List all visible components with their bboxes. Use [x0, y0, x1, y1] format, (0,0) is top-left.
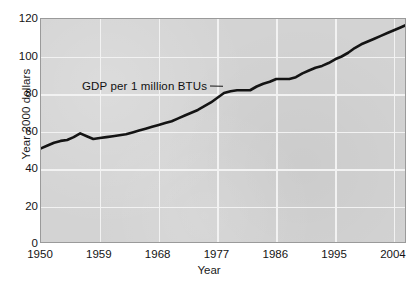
annotation-label-gdp-per-million-btus: GDP per 1 million BTUs [82, 80, 207, 92]
x-tick-label: 1950 [27, 248, 53, 260]
x-tick-label: 1977 [204, 248, 230, 260]
line-series-gdp-per-million-btus [41, 19, 406, 243]
x-tick-label: 1986 [262, 248, 288, 260]
x-tick-label: 1995 [321, 248, 347, 260]
y-tick-label: 80 [25, 87, 38, 99]
x-tick-label: 1968 [145, 248, 171, 260]
plot-area [40, 18, 406, 243]
x-tick-label: 2004 [380, 248, 406, 260]
y-tick-label: 40 [25, 162, 38, 174]
y-tick-label: 20 [25, 200, 38, 212]
y-tick-label: 100 [19, 50, 38, 62]
x-tick-label: 1959 [86, 248, 112, 260]
y-tick-label: 60 [25, 125, 38, 137]
x-axis-title: Year [0, 264, 418, 276]
y-tick-label: 120 [19, 12, 38, 24]
chart-figure: Year 2000 dollars Year 020406080100120 1… [0, 0, 418, 284]
